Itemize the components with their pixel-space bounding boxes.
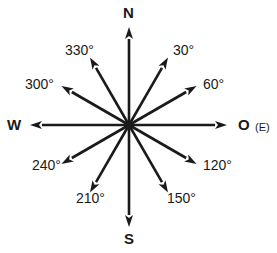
- bearing-150-label: 150°: [167, 191, 196, 205]
- west-label: W: [7, 118, 21, 132]
- south-label: S: [124, 232, 134, 246]
- arrow-90-icon: [129, 121, 227, 129]
- center-point: [126, 122, 133, 129]
- bearing-330-label: 330°: [65, 43, 94, 57]
- compass-rose-diagram: [0, 0, 277, 253]
- bearing-120-label: 120°: [203, 158, 232, 172]
- north-label: N: [123, 6, 134, 20]
- east-note: (E): [255, 120, 270, 134]
- arrow-0-icon: [125, 27, 133, 125]
- bearing-240-label: 240°: [32, 158, 61, 172]
- bearing-30-label: 30°: [173, 43, 194, 57]
- east-label-zero: O: [238, 118, 250, 132]
- bearing-210-label: 210°: [76, 191, 105, 205]
- bearing-300-label: 300°: [25, 77, 54, 91]
- bearing-60-label: 60°: [203, 77, 224, 91]
- arrow-180-icon: [125, 125, 133, 227]
- arrow-270-icon: [30, 121, 129, 129]
